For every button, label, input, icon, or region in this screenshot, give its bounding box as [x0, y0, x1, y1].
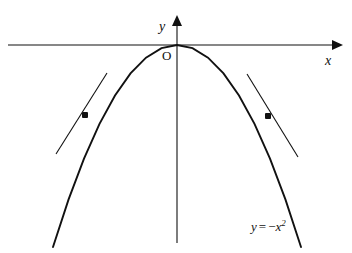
right-tangency-point-marker: [265, 113, 271, 119]
y-axis-arrowhead: [172, 15, 182, 26]
x-axis-label: x: [325, 54, 331, 68]
origin-label: O: [162, 49, 171, 62]
x-axis-arrowhead: [332, 40, 343, 50]
y-axis-group: [172, 15, 182, 243]
parabola-figure: y x O y=−x2: [0, 0, 352, 253]
y-axis-label: y: [159, 20, 165, 34]
equation-lhs: y: [251, 219, 257, 234]
left-tangency-point-marker: [82, 112, 88, 118]
curve-equation-label: y=−x2: [251, 220, 286, 233]
right-tangent-line: [247, 74, 298, 157]
figure-canvas: [0, 0, 352, 253]
equation-exponent: 2: [281, 218, 286, 228]
left-tangent-line: [56, 73, 107, 154]
equation-equals-sign: =: [257, 219, 268, 234]
